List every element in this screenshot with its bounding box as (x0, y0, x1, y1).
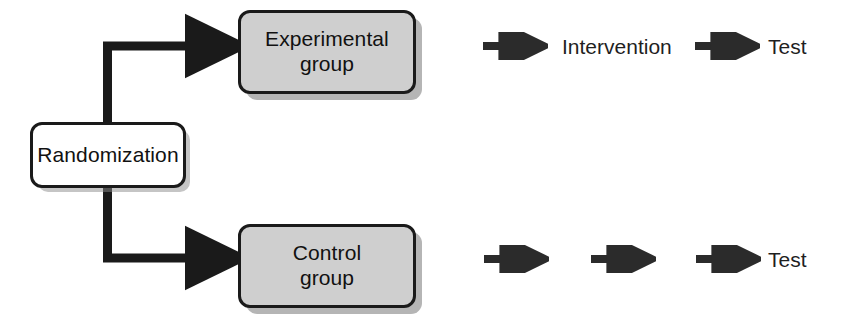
connector-randomization-to-experimental (108, 46, 227, 122)
flow-arrow-control-1 (483, 245, 549, 273)
node-experimental-group-label: Experimental group (265, 27, 389, 77)
flow-step-intervention: Intervention (562, 36, 672, 57)
flow-step-test-experimental: Test (768, 36, 807, 57)
flow-step-test-control: Test (768, 249, 807, 270)
node-randomization-label: Randomization (37, 143, 178, 168)
diagram-canvas: Randomization Experimental group Control… (0, 0, 841, 331)
connector-randomization-to-control (108, 188, 227, 258)
node-experimental-group[interactable]: Experimental group (238, 10, 416, 94)
flow-arrow-experimental-2 (694, 32, 760, 60)
node-control-group[interactable]: Control group (238, 224, 416, 308)
flow-arrow-experimental-1 (482, 32, 548, 60)
node-randomization[interactable]: Randomization (30, 122, 186, 188)
flow-arrow-control-3 (695, 245, 761, 273)
flow-arrow-control-2 (590, 245, 656, 273)
node-control-group-label: Control group (293, 241, 361, 291)
